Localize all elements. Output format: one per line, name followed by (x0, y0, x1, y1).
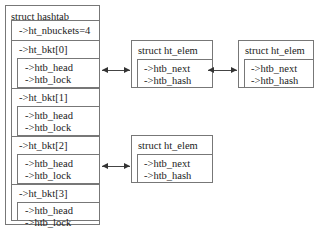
bucket-2-fields: ->htb_head ->htb_lock (17, 154, 100, 184)
bucket-1-fields: ->htb_head ->htb_lock (17, 106, 100, 136)
double-arrow-bkt0-elem0 (102, 70, 130, 71)
bucket-2-label: ->ht_bkt[2] (11, 136, 100, 154)
double-arrow-elem0-elem1 (208, 70, 237, 71)
bucket-3-fields: ->htb_head ->htb_lock (17, 202, 100, 221)
ht-elem-1: struct ht_elem ->htb_next ->htb_hash (238, 40, 314, 88)
double-arrow-bkt2-elem2 (102, 166, 130, 167)
ht-elem-2-fields: ->htb_next ->htb_hash (137, 154, 213, 183)
bucket-3-label: ->ht_bkt[3] (11, 184, 100, 202)
ht-elem-0: struct ht_elem ->htb_next ->htb_hash (131, 40, 213, 88)
ht-elem-1-fields: ->htb_next ->htb_hash (244, 59, 314, 88)
bucket-0-fields: ->htb_head ->htb_lock (17, 58, 100, 88)
nbuckets-field: ->ht_nbuckets=4 (11, 20, 100, 41)
ht-elem-2: struct ht_elem ->htb_next ->htb_hash (131, 135, 213, 183)
bucket-1-label: ->ht_bkt[1] (11, 88, 100, 106)
bucket-0-label: ->ht_bkt[0] (11, 40, 100, 58)
ht-elem-0-fields: ->htb_next ->htb_hash (137, 59, 213, 88)
